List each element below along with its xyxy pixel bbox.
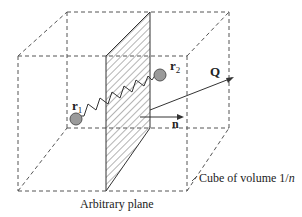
label-r2: r2 [170, 58, 180, 75]
q-arrowhead-icon [226, 77, 234, 83]
cube-polymer-diagram: r1 r2 Q n Arbitrary plane Cube of volume… [0, 0, 302, 217]
q-vector [150, 77, 234, 110]
cube-caption: Cube of volume 1/n [199, 171, 295, 185]
bead-r2 [154, 69, 166, 81]
cube-caption-leader [192, 176, 197, 181]
label-Q: Q [210, 64, 220, 79]
label-r1: r1 [72, 98, 82, 115]
label-n: n [172, 117, 179, 131]
arbitrary-plane [106, 12, 150, 191]
plane-caption: Arbitrary plane [80, 197, 154, 211]
